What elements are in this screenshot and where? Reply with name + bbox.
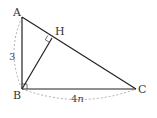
- segment-bh: [22, 38, 52, 89]
- triangle-diagram: A H B C 3 4n: [0, 0, 157, 118]
- label-c: C: [138, 83, 146, 96]
- dimension-bc-variable: n: [77, 93, 83, 104]
- label-b: B: [13, 89, 21, 102]
- label-a: A: [12, 6, 22, 19]
- right-angle-mark-h: [45, 36, 49, 43]
- segment-ac: [22, 17, 136, 89]
- dimension-label-ab: 3: [9, 51, 15, 62]
- dimension-label-bc: 4n: [71, 93, 84, 104]
- label-h: H: [55, 25, 65, 38]
